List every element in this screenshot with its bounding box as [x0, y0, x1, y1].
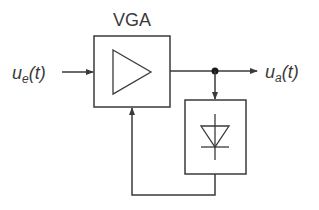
diode-icon	[201, 114, 229, 160]
agc-block-diagram: VGA ue(t) ua(t)	[0, 0, 319, 210]
output-signal-label: ua(t)	[265, 62, 299, 85]
vga-block	[94, 36, 170, 107]
input-signal-label: ue(t)	[12, 63, 46, 86]
vga-title: VGA	[113, 10, 151, 30]
amplifier-icon	[113, 50, 151, 94]
feedback-path	[132, 108, 215, 195]
